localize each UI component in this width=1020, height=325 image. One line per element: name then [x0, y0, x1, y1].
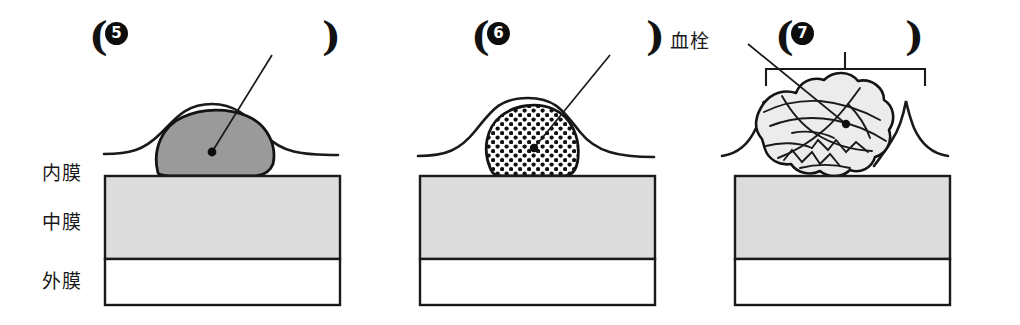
panel-6-step-number: 6	[487, 22, 510, 45]
layer-label-media: 中膜	[42, 207, 81, 234]
panel-7-close-paren: )	[905, 16, 924, 56]
panel-6-close-paren: )	[646, 16, 665, 56]
layer-label-adventitia: 外膜	[42, 266, 81, 293]
panel-5-group	[104, 55, 340, 305]
panel-5-step-number: 5	[105, 22, 128, 45]
panel-5-adventitia	[105, 259, 340, 305]
panel-7-leader-dot	[842, 120, 850, 128]
panel-5-leader-dot	[208, 148, 217, 157]
panel-6-leader-dot	[530, 144, 538, 152]
panel-6-plaque	[486, 105, 578, 176]
panel-6-group	[418, 55, 655, 305]
panel-7-step-number: 7	[791, 22, 814, 45]
panel-7-media	[735, 176, 950, 259]
panel-5-media	[105, 176, 340, 259]
figure-canvas: 内膜 中膜 外膜 ( 5 ) ( 6 ) 血栓 ( 7 )	[0, 0, 1020, 325]
artery-plaque-progression-diagram	[0, 0, 1020, 325]
panel-6-media	[420, 176, 655, 259]
thrombus-callout-label: 血栓	[670, 26, 709, 53]
layer-label-intima: 内膜	[42, 158, 81, 185]
panel-6-adventitia	[420, 259, 655, 305]
panel-5-close-paren: )	[322, 16, 341, 56]
panel-7-group	[722, 44, 950, 305]
panel-7-adventitia	[735, 259, 950, 305]
